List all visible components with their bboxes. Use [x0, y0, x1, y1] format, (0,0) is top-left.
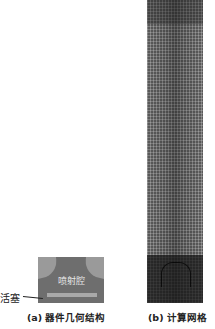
piston-label: 活塞: [0, 290, 20, 305]
mesh-top-region: [147, 0, 203, 24]
mesh-nozzle-outline: [161, 262, 191, 287]
chamber-label: 喷射腔: [38, 274, 104, 287]
computational-mesh: [147, 0, 203, 303]
caption-a: (a) 器件几何结构: [27, 310, 105, 324]
device-geometry: 喷射腔: [38, 257, 104, 303]
piston-shape: [47, 293, 97, 297]
caption-b: (b) 计算网格: [148, 310, 207, 324]
